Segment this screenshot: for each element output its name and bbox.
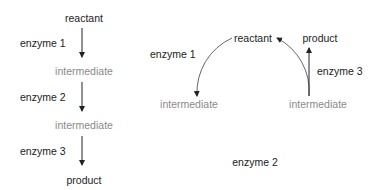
linear-enzyme-1-label: enzyme 1	[20, 37, 66, 49]
cycle-intermediate-left-label: intermediate	[160, 98, 218, 110]
linear-enzyme-3-label: enzyme 3	[20, 145, 66, 157]
cycle-reactant-label: reactant	[234, 32, 272, 44]
cycle-enzyme-2-label: enzyme 2	[232, 156, 278, 168]
linear-reactant-label: reactant	[65, 12, 103, 24]
linear-intermediate-1-label: intermediate	[55, 65, 113, 77]
cycle-intermediate-right-label: intermediate	[289, 98, 347, 110]
linear-intermediate-2-label: intermediate	[55, 119, 113, 131]
cycle-arc-enzyme-1	[197, 38, 232, 96]
cycle-enzyme-1-label: enzyme 1	[150, 48, 196, 60]
cycle-enzyme-3-label: enzyme 3	[317, 65, 363, 77]
cycle-arc-regeneration	[277, 38, 309, 96]
linear-product-label: product	[66, 174, 101, 186]
linear-enzyme-2-label: enzyme 2	[20, 91, 66, 103]
cycle-product-label: product	[302, 32, 337, 44]
